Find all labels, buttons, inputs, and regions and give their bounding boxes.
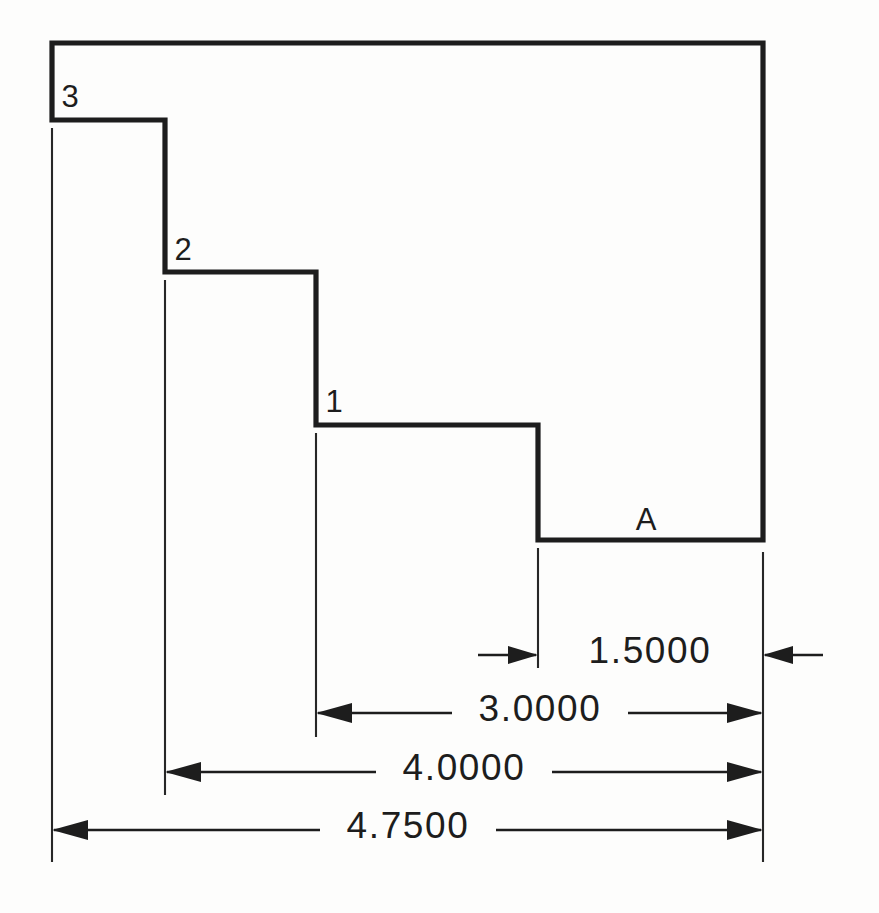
dimension-4-7500-text: 4.7500 bbox=[347, 805, 470, 846]
dimension-1-5000-arrow-left bbox=[508, 646, 538, 664]
face-label-a: A bbox=[636, 502, 657, 537]
part-outline bbox=[52, 43, 763, 540]
dimension-4-7500-arrow-right bbox=[727, 820, 763, 840]
vertex-label-3: 3 bbox=[61, 79, 78, 114]
drawing-svg: 1.5000 3.0000 4.0000 4.7500 bbox=[0, 0, 879, 913]
dimension-3-0000-arrow-right bbox=[727, 703, 763, 723]
dimension-4-0000-arrow-right bbox=[727, 762, 763, 782]
technical-drawing-canvas: 1.5000 3.0000 4.0000 4.7500 bbox=[0, 0, 879, 913]
dimension-1-5000-text: 1.5000 bbox=[589, 630, 712, 671]
dimension-1-5000-arrow-right bbox=[763, 646, 793, 664]
dimension-3-0000-arrow-left bbox=[316, 703, 352, 723]
dimension-4-7500-arrow-left bbox=[52, 820, 88, 840]
vertex-label-2: 2 bbox=[174, 232, 191, 267]
dimension-4-0000: 4.0000 bbox=[165, 747, 763, 788]
vertex-labels-group: 3 2 1 bbox=[61, 79, 342, 419]
dimension-1-5000: 1.5000 bbox=[478, 630, 823, 671]
dimension-3-0000: 3.0000 bbox=[316, 688, 763, 729]
dimension-4-0000-arrow-left bbox=[165, 762, 201, 782]
face-labels-group: A bbox=[636, 502, 657, 537]
dimension-4-7500: 4.7500 bbox=[52, 805, 763, 846]
vertex-label-1: 1 bbox=[325, 384, 342, 419]
dimension-4-0000-text: 4.0000 bbox=[403, 747, 526, 788]
dimension-3-0000-text: 3.0000 bbox=[479, 688, 602, 729]
